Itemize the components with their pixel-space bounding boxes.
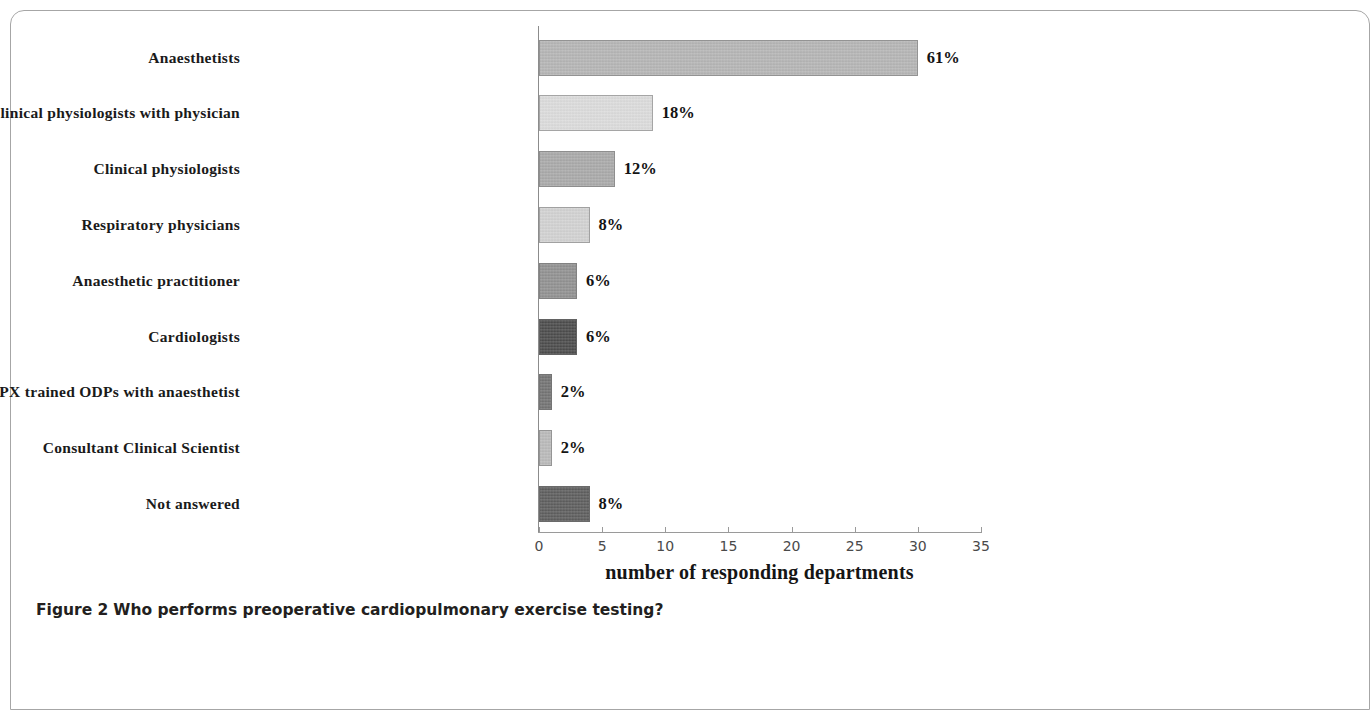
bar <box>539 319 577 355</box>
bar-track: 8% <box>539 207 623 243</box>
bar-row: CPX trained ODPs with anaesthetist2% <box>0 365 1000 420</box>
x-axis-title: number of responding departments <box>538 561 981 584</box>
bar-row: Consultant Clinical Scientist2% <box>0 421 1000 476</box>
bar-track: 61% <box>539 40 960 76</box>
bar-value-label: 12% <box>624 159 657 179</box>
bar <box>539 430 552 466</box>
bar-row: Anaesthetists61% <box>0 30 1000 85</box>
x-axis-tick-label: 25 <box>835 538 875 554</box>
x-axis-tick-label: 0 <box>519 538 559 554</box>
x-axis-tick <box>855 527 856 533</box>
bar-category-label: Not answered <box>0 495 240 513</box>
bar-value-label: 8% <box>599 215 624 235</box>
bar-category-label: Anaesthetists <box>0 49 240 67</box>
x-axis-tick-label: 10 <box>645 538 685 554</box>
bar-track: 8% <box>539 486 623 522</box>
bar-row: Not answered8% <box>0 476 1000 531</box>
bar-track: 18% <box>539 95 695 131</box>
x-axis-tick-label: 30 <box>898 538 938 554</box>
bar-track: 6% <box>539 263 611 299</box>
bar <box>539 95 653 131</box>
bar-chart: Anaesthetists61%Clinical physiologists w… <box>0 0 1240 580</box>
bar-category-label: Respiratory physicians <box>0 216 240 234</box>
bar-category-label: Consultant Clinical Scientist <box>0 439 240 457</box>
bar-row: Clinical physiologists with physician18% <box>0 86 1000 141</box>
bar-track: 12% <box>539 151 657 187</box>
bar-value-label: 61% <box>927 48 960 68</box>
x-axis-line <box>538 532 981 533</box>
bar <box>539 486 590 522</box>
x-axis-tick-label: 35 <box>961 538 1001 554</box>
bar-track: 2% <box>539 430 585 466</box>
bar-row: Cardiologists6% <box>0 309 1000 364</box>
bar <box>539 374 552 410</box>
x-axis-tick <box>918 527 919 533</box>
figure-caption-text: Who performs preoperative cardiopulmonar… <box>113 601 663 619</box>
bar-value-label: 2% <box>561 382 586 402</box>
bar <box>539 263 577 299</box>
bar-value-label: 6% <box>586 327 611 347</box>
y-axis-line <box>538 26 539 533</box>
bar-row: Clinical physiologists12% <box>0 142 1000 197</box>
bar-value-label: 6% <box>586 271 611 291</box>
figure-caption-label: Figure 2 <box>36 601 108 619</box>
bar <box>539 207 590 243</box>
bar-category-label: Clinical physiologists <box>0 160 240 178</box>
bar-category-label: Anaesthetic practitioner <box>0 272 240 290</box>
x-axis-tick <box>981 527 982 533</box>
bar-value-label: 8% <box>599 494 624 514</box>
bar-category-label: Clinical physiologists with physician <box>0 104 240 122</box>
bar-value-label: 2% <box>561 438 586 458</box>
x-axis-tick <box>602 527 603 533</box>
figure-caption: Figure 2 Who performs preoperative cardi… <box>36 601 663 619</box>
bar-row: Anaesthetic practitioner6% <box>0 253 1000 308</box>
x-axis-tick <box>665 527 666 533</box>
bar-value-label: 18% <box>662 103 695 123</box>
x-axis-tick <box>728 527 729 533</box>
bar-row: Respiratory physicians8% <box>0 197 1000 252</box>
x-axis-tick-label: 20 <box>772 538 812 554</box>
x-axis-tick <box>792 527 793 533</box>
bar-track: 2% <box>539 374 585 410</box>
bar <box>539 40 918 76</box>
bar <box>539 151 615 187</box>
x-axis-tick-label: 15 <box>708 538 748 554</box>
bar-category-label: CPX trained ODPs with anaesthetist <box>0 383 240 401</box>
x-axis-tick <box>539 527 540 533</box>
x-axis-tick-label: 5 <box>582 538 622 554</box>
bar-track: 6% <box>539 319 611 355</box>
bar-category-label: Cardiologists <box>0 328 240 346</box>
